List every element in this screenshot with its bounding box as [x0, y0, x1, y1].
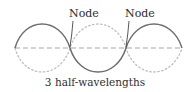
- node-pointer-left: [70, 21, 73, 47]
- node-label-left: Node: [69, 8, 99, 19]
- caption: 3 half-wavelengths: [0, 77, 190, 88]
- standing-wave-diagram: Node Node 3 half-wavelengths: [0, 0, 190, 92]
- node-label-right: Node: [125, 8, 155, 19]
